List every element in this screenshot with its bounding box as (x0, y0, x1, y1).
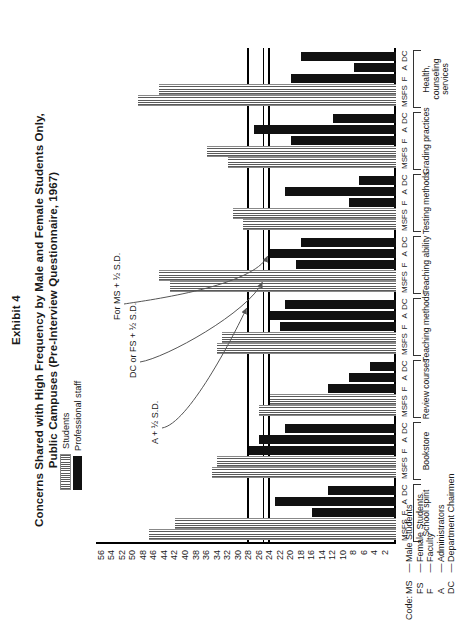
bar-code-DC: DC (401, 51, 409, 62)
bar-code-A: A (401, 434, 409, 445)
value-tick-16: 16 (307, 550, 316, 578)
bar-code-F: F (401, 260, 409, 271)
bar-code-MS: MS (401, 406, 409, 417)
legend: Students Professional staff (60, 381, 84, 490)
annotation-dc-fs-half-sd: DC or FS + ½ S.D. (128, 303, 138, 378)
value-tick-38: 38 (192, 550, 201, 578)
code-key-dash: — (415, 562, 426, 574)
bar-bookstore-DC (285, 424, 396, 433)
bar-teaching-ability-FS (159, 270, 396, 281)
bar-review-courses-F (328, 385, 396, 394)
code-key-meaning: Department Chairmen (446, 473, 457, 562)
chart-title: Concerns Shared with High Frequency by M… (32, 0, 60, 640)
exhibit-canvas: Exhibit 4 Concerns Shared with High Freq… (0, 0, 473, 640)
bar-grading-practices-MS (228, 157, 396, 168)
code-key: Code:MS—Male StudentsFS—Female StudentsF… (404, 473, 457, 620)
code-key-row: FS—Female Students (415, 473, 426, 594)
code-key-meaning: Administrators (436, 473, 447, 562)
code-key-abbr: FS (415, 574, 426, 594)
bar-grading-practices-DC (333, 114, 396, 123)
plot-area: 2468101214161820222426283032343638404244… (96, 48, 396, 544)
code-key-abbr: DC (446, 574, 457, 594)
code-key-abbr: F (425, 574, 436, 594)
value-tick-24: 24 (265, 550, 274, 578)
bar-health-MS (138, 95, 396, 106)
bar-testing-methods-DC (359, 176, 396, 185)
category-brace (413, 50, 421, 108)
bar-school-spirit-DC (328, 486, 396, 495)
value-tick-8: 8 (349, 550, 358, 578)
bar-code-DC: DC (401, 423, 409, 434)
bar-code-A: A (401, 186, 409, 197)
category-label: Review courses (422, 354, 432, 424)
bar-code-FS: FS (401, 395, 409, 406)
category-label: Testing methods (422, 168, 432, 238)
bar-code-A: A (401, 310, 409, 321)
bar-code-A: A (401, 62, 409, 73)
category-brace (413, 298, 421, 356)
bar-code-F: F (401, 384, 409, 395)
code-key-dash: — (425, 562, 436, 574)
legend-item-staff: Professional staff (72, 381, 83, 490)
legend-swatch-staff (73, 456, 82, 490)
value-tick-30: 30 (234, 550, 243, 578)
value-tick-34: 34 (213, 550, 222, 578)
category-brace (413, 422, 421, 480)
exhibit-label: Exhibit 4 (10, 0, 22, 640)
code-key-row: DC—Department Chairmen (446, 473, 457, 594)
bar-teaching-ability-DC (301, 238, 396, 247)
bar-testing-methods-MS (243, 219, 396, 230)
value-tick-32: 32 (223, 550, 232, 578)
bar-review-courses-A (349, 373, 396, 382)
code-key-dash: — (436, 562, 447, 574)
code-key-dash: — (446, 562, 457, 574)
value-tick-52: 52 (118, 550, 127, 578)
code-key-heading: Code: (404, 596, 415, 620)
code-key-meaning: Male Students (404, 473, 415, 562)
code-key-row: A—Administrators (436, 473, 447, 594)
value-tick-48: 48 (139, 550, 148, 578)
code-key-meaning: Female Students (415, 473, 426, 562)
bar-teaching-methods-FS (222, 332, 396, 343)
bar-code-FS: FS (401, 333, 409, 344)
bar-grading-practices-FS (207, 146, 396, 157)
bar-teaching-ability-F (296, 261, 396, 270)
bar-teaching-methods-A (270, 311, 396, 320)
category-label: Health, counseling services (422, 44, 451, 114)
bar-code-DC: DC (401, 113, 409, 124)
bar-grading-practices-F (291, 137, 396, 146)
category-brace (413, 360, 421, 418)
value-tick-56: 56 (97, 550, 106, 578)
bar-school-spirit-MS (149, 529, 396, 540)
bar-code-DC: DC (401, 299, 409, 310)
bar-teaching-methods-DC (285, 300, 396, 309)
value-tick-42: 42 (170, 550, 179, 578)
bar-testing-methods-A (285, 187, 396, 196)
bar-health-A (354, 63, 396, 72)
bar-teaching-methods-F (280, 323, 396, 332)
annotation-a-half-sd: A + ½ S.D. (150, 401, 160, 444)
category-brace (413, 112, 421, 170)
chart-title-line2: Public Campuses (Pre-Interview Questionn… (46, 0, 60, 640)
bar-teaching-ability-MS (170, 281, 396, 292)
bar-school-spirit-F (312, 509, 396, 518)
bar-code-F: F (401, 74, 409, 85)
bar-code-MS: MS (401, 158, 409, 169)
bar-group (96, 296, 396, 358)
code-key-row: MS—Male Students (404, 473, 415, 594)
code-key-abbr: A (436, 574, 447, 594)
bar-group (96, 172, 396, 234)
value-tick-22: 22 (276, 550, 285, 578)
category-label: Grading practices (422, 106, 432, 176)
value-tick-2: 2 (381, 550, 390, 578)
value-tick-10: 10 (339, 550, 348, 578)
value-tick-20: 20 (286, 550, 295, 578)
bar-code-MS: MS (401, 96, 409, 107)
code-key-abbr: MS (404, 574, 415, 594)
bar-school-spirit-A (275, 497, 396, 506)
bar-testing-methods-FS (233, 208, 396, 219)
value-tick-46: 46 (149, 550, 158, 578)
code-key-dash: — (404, 562, 415, 574)
bar-code-F: F (401, 322, 409, 333)
bar-code-F: F (401, 446, 409, 457)
